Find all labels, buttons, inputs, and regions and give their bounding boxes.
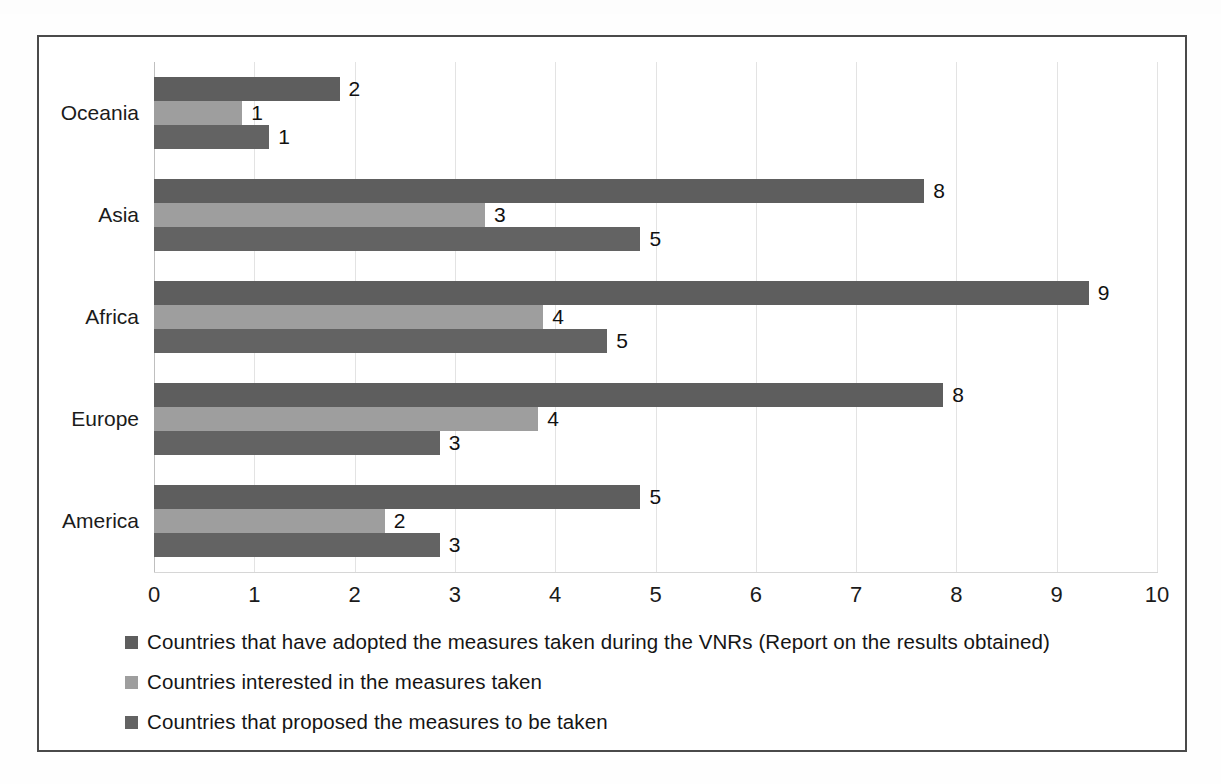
bar-value-label: 1 bbox=[251, 101, 263, 125]
bar[interactable] bbox=[154, 305, 543, 329]
legend-label: Countries interested in the measures tak… bbox=[147, 670, 542, 694]
axis-baseline bbox=[154, 572, 1158, 573]
bar-value-label: 3 bbox=[449, 431, 461, 455]
bar[interactable] bbox=[154, 407, 538, 431]
bar-group: 211 bbox=[154, 77, 1157, 149]
bar-value-label: 3 bbox=[494, 203, 506, 227]
bar-value-label: 9 bbox=[1098, 281, 1110, 305]
legend-swatch-icon bbox=[125, 676, 138, 689]
legend-item[interactable]: Countries that have adopted the measures… bbox=[125, 622, 1175, 662]
bar[interactable] bbox=[154, 533, 440, 557]
bar-value-label: 5 bbox=[616, 329, 628, 353]
bar-value-label: 5 bbox=[649, 485, 661, 509]
x-tick-label-5: 5 bbox=[649, 582, 661, 608]
chart-frame: OceaniaAsiaAfricaEuropeAmerica 211835945… bbox=[37, 35, 1187, 752]
bar[interactable] bbox=[154, 77, 340, 101]
bar-value-label: 4 bbox=[552, 305, 564, 329]
x-tick-label-3: 3 bbox=[449, 582, 461, 608]
x-tick-label-0: 0 bbox=[148, 582, 160, 608]
bar[interactable] bbox=[154, 509, 385, 533]
bar[interactable] bbox=[154, 281, 1089, 305]
category-label-africa: Africa bbox=[85, 305, 139, 329]
x-tick-label-7: 7 bbox=[850, 582, 862, 608]
bar-value-label: 4 bbox=[547, 407, 559, 431]
legend-swatch-icon bbox=[125, 636, 138, 649]
bar-value-label: 8 bbox=[952, 383, 964, 407]
chart-legend: Countries that have adopted the measures… bbox=[125, 622, 1175, 742]
category-label-europe: Europe bbox=[71, 407, 139, 431]
bar-value-label: 2 bbox=[394, 509, 406, 533]
legend-label: Countries that have adopted the measures… bbox=[147, 630, 1050, 654]
bar[interactable] bbox=[154, 227, 640, 251]
bar[interactable] bbox=[154, 179, 924, 203]
legend-item[interactable]: Countries interested in the measures tak… bbox=[125, 662, 1175, 702]
category-label-oceania: Oceania bbox=[61, 101, 139, 125]
bar-group: 843 bbox=[154, 383, 1157, 455]
bar-value-label: 8 bbox=[933, 179, 945, 203]
x-tick-label-6: 6 bbox=[750, 582, 762, 608]
bar-group: 835 bbox=[154, 179, 1157, 251]
x-tick-label-10: 10 bbox=[1145, 582, 1169, 608]
bar[interactable] bbox=[154, 203, 485, 227]
x-axis-tick-labels: 012345678910 bbox=[154, 582, 1157, 614]
bar-value-label: 3 bbox=[449, 533, 461, 557]
bar-value-label: 1 bbox=[278, 125, 290, 149]
x-tick-label-4: 4 bbox=[549, 582, 561, 608]
bar[interactable] bbox=[154, 101, 242, 125]
bar[interactable] bbox=[154, 485, 640, 509]
bar-group: 523 bbox=[154, 485, 1157, 557]
bar[interactable] bbox=[154, 383, 943, 407]
x-tick-label-8: 8 bbox=[950, 582, 962, 608]
bar-group: 945 bbox=[154, 281, 1157, 353]
bar[interactable] bbox=[154, 329, 607, 353]
legend-label: Countries that proposed the measures to … bbox=[147, 710, 608, 734]
bar[interactable] bbox=[154, 125, 269, 149]
scan-artifact-strip bbox=[0, 0, 1221, 14]
plot-area: 211835945843523 bbox=[154, 62, 1157, 572]
bar-value-label: 5 bbox=[649, 227, 661, 251]
bar[interactable] bbox=[154, 431, 440, 455]
x-tick-label-2: 2 bbox=[348, 582, 360, 608]
x-tick-label-1: 1 bbox=[248, 582, 260, 608]
bar-value-label: 2 bbox=[349, 77, 361, 101]
category-label-asia: Asia bbox=[98, 203, 139, 227]
gridline-10 bbox=[1157, 62, 1158, 572]
legend-swatch-icon bbox=[125, 716, 138, 729]
legend-item[interactable]: Countries that proposed the measures to … bbox=[125, 702, 1175, 742]
category-label-america: America bbox=[62, 509, 139, 533]
x-tick-label-9: 9 bbox=[1051, 582, 1063, 608]
category-axis: OceaniaAsiaAfricaEuropeAmerica bbox=[39, 62, 139, 572]
